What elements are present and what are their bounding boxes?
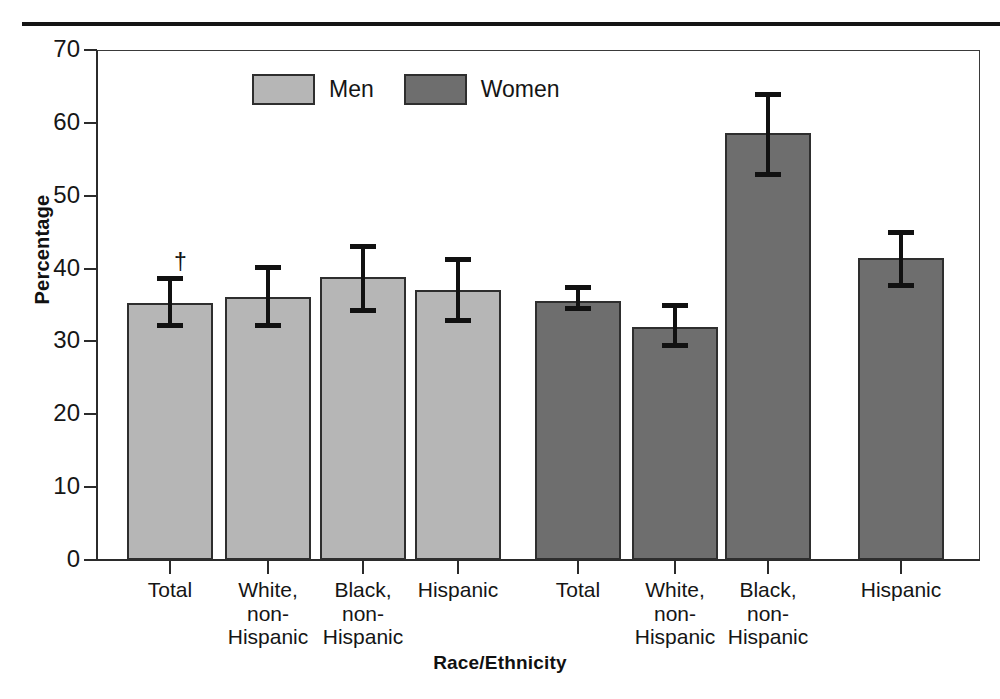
legend-label-women: Women <box>481 78 560 101</box>
x-axis-category-label-line: Hispanic <box>288 625 438 649</box>
error-bar-cap-lower <box>662 343 688 348</box>
error-bar-stem <box>899 230 903 288</box>
error-bar-cap-lower <box>445 318 471 323</box>
y-axis-tick <box>84 268 97 270</box>
y-axis-tick-label: 70 <box>34 37 80 61</box>
x-axis-category-label-line: Hispanic <box>693 625 843 649</box>
y-axis-line <box>96 50 98 561</box>
x-axis-category-label-line: Black, <box>693 578 843 602</box>
legend-label-men: Men <box>329 78 374 101</box>
error-bar-cap-upper <box>662 303 688 308</box>
error-bar-cap-upper <box>445 257 471 262</box>
error-bar-cap-lower <box>255 323 281 328</box>
x-axis-tick <box>457 561 459 574</box>
y-axis-tick-label-wrap: 60 <box>20 123 80 124</box>
y-axis-tick <box>84 486 97 488</box>
x-axis-tick <box>674 561 676 574</box>
bar-women-white <box>632 327 718 560</box>
error-bar-cap-lower <box>350 308 376 313</box>
y-axis-tick-label: 0 <box>34 547 80 571</box>
error-bar-cap-upper <box>888 230 914 235</box>
y-axis-tick-label-wrap: 10 <box>20 487 80 488</box>
x-axis-category-label: Black,non-Hispanic <box>693 578 843 649</box>
y-axis-tick <box>84 122 97 124</box>
error-bar-stem <box>456 257 460 323</box>
y-axis-tick <box>84 559 97 561</box>
x-axis-tick <box>169 561 171 574</box>
error-bar-stem <box>673 303 677 348</box>
x-axis-category-label-line: Hispanic <box>826 578 976 602</box>
y-axis-tick <box>84 49 97 51</box>
y-axis-tick-label-wrap: 70 <box>20 50 80 51</box>
y-axis-title: Percentage <box>31 140 54 360</box>
bar-women-hispanic <box>858 258 944 560</box>
error-bar-cap-lower <box>157 323 183 328</box>
y-axis-tick-label-wrap: 20 <box>20 414 80 415</box>
bar-men-total <box>127 303 213 560</box>
error-bar-cap-upper <box>157 276 183 281</box>
y-axis-tick <box>84 413 97 415</box>
y-axis-tick-label: 60 <box>34 110 80 134</box>
error-bar-stem <box>766 92 770 177</box>
footnote-dagger-marker: † <box>174 251 187 274</box>
error-bar-stem <box>361 244 365 313</box>
error-bar-cap-upper <box>565 285 591 290</box>
men-swatch-icon <box>252 74 315 105</box>
women-swatch-icon <box>404 74 467 105</box>
x-axis-tick <box>900 561 902 574</box>
error-bar-cap-lower <box>565 306 591 311</box>
bar-women-total <box>535 301 621 560</box>
y-axis-tick <box>84 340 97 342</box>
x-axis-title: Race/Ethnicity <box>0 652 1000 674</box>
x-axis-tick <box>267 561 269 574</box>
legend-item-women: Women <box>404 74 560 105</box>
bar-men-black <box>320 277 406 560</box>
error-bar-cap-upper <box>350 244 376 249</box>
legend-item-men: Men <box>252 74 374 105</box>
error-bar-cap-lower <box>755 172 781 177</box>
x-axis-category-label-line: non- <box>693 602 843 626</box>
y-axis-tick-label: 20 <box>34 401 80 425</box>
bar-women-black <box>725 133 811 560</box>
error-bar-stem <box>168 276 172 328</box>
error-bar-cap-upper <box>755 92 781 97</box>
x-axis-tick <box>362 561 364 574</box>
x-axis-tick <box>767 561 769 574</box>
x-axis-category-label: Hispanic <box>826 578 976 602</box>
top-rule-divider <box>22 22 1000 26</box>
y-axis-tick <box>84 195 97 197</box>
figure-canvas: 010203040506070 Percentage Race/Ethnicit… <box>0 0 1000 699</box>
y-axis-tick-label: 10 <box>34 474 80 498</box>
y-axis-tick-label-wrap: 0 <box>20 560 80 561</box>
bar-men-hispanic <box>415 290 501 560</box>
error-bar-stem <box>266 265 270 328</box>
bar-men-white <box>225 297 311 560</box>
x-axis-category-label-line: non- <box>288 602 438 626</box>
error-bar-cap-upper <box>255 265 281 270</box>
x-axis-tick <box>577 561 579 574</box>
legend: Men Women <box>252 74 560 105</box>
error-bar-cap-lower <box>888 283 914 288</box>
